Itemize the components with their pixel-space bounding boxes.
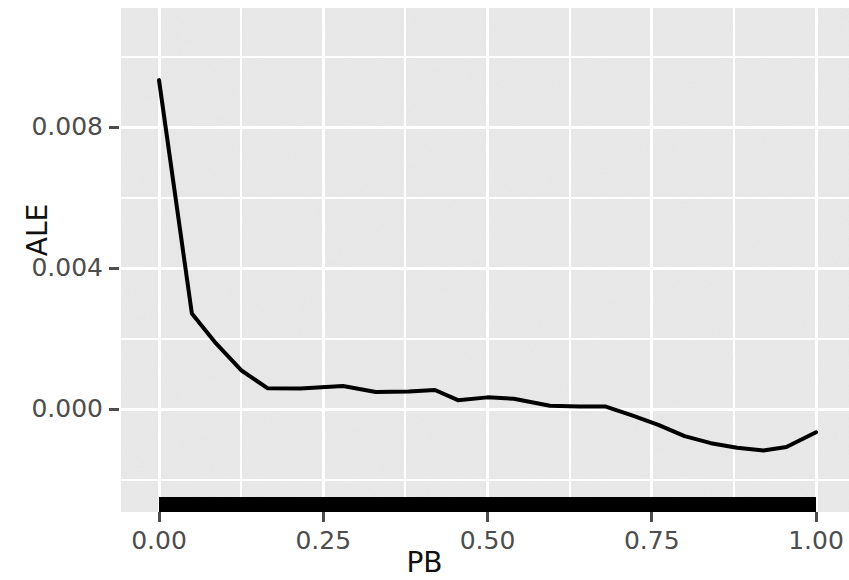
y-axis-tick-mark: [109, 408, 119, 411]
y-axis-tick-label: 0.000: [31, 396, 103, 421]
ale-line-series: [159, 80, 816, 450]
data-distribution-rug: [159, 497, 816, 512]
x-axis-tick-mark: [815, 512, 818, 522]
x-axis-tick-mark: [486, 512, 489, 522]
data-line-layer: [121, 8, 849, 512]
y-axis-tick-mark: [109, 267, 119, 270]
y-axis-tick-label: 0.004: [31, 255, 103, 280]
y-axis-title: ALE: [24, 204, 52, 256]
x-axis-title: PB: [0, 549, 849, 577]
x-axis-tick-mark: [650, 512, 653, 522]
ale-plot-figure: 0.0000.0040.008 ALE 0.000.250.500.751.00…: [0, 0, 849, 580]
plot-panel: [121, 8, 849, 512]
x-axis-tick-mark: [322, 512, 325, 522]
y-axis-tick-label: 0.008: [31, 114, 103, 139]
y-axis-tick-mark: [109, 126, 119, 129]
x-axis-tick-mark: [158, 512, 161, 522]
